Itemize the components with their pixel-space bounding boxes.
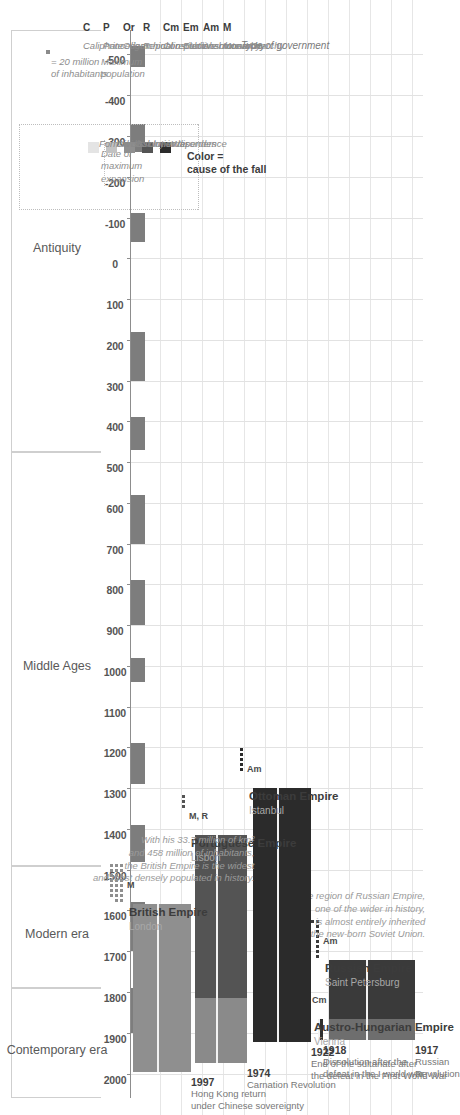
- empire-capital: Istanbul: [249, 805, 338, 816]
- population-unit: [240, 748, 243, 751]
- axis-tick: [127, 462, 131, 463]
- population-unit: [110, 889, 113, 892]
- empire-label-0: Russian EmpireSaint Petersburg: [325, 958, 412, 988]
- gridline-horizontal: [349, 0, 350, 1115]
- note-line: is almost entirely inherited: [315, 915, 425, 926]
- gridline-vertical: [131, 707, 423, 708]
- gridline-horizontal: [412, 0, 413, 1115]
- gridline-vertical: [131, 503, 423, 504]
- government-tag-2: Am: [247, 764, 262, 774]
- axis-tick: [127, 381, 131, 382]
- gridline-vertical: [131, 258, 423, 259]
- era-label: Antiquity: [33, 241, 81, 255]
- gridline-vertical: [131, 462, 423, 463]
- note-line: and 458 million of inhabitants,: [129, 846, 255, 857]
- fall-cause-text: Hong Kong return: [191, 1089, 304, 1100]
- axis-tick: [127, 951, 131, 952]
- gridline-vertical: [131, 625, 423, 626]
- empire-fall-annotation-4: 1997Hong Kong returnunder Chinese sovere…: [191, 1076, 304, 1111]
- gridline-vertical: [131, 218, 423, 219]
- period-marker: [131, 495, 145, 544]
- population-unit: [182, 805, 185, 808]
- empire-label-1: Austro-Hungarian EmpireVienna: [314, 1017, 454, 1047]
- empire-note-4: With his 33.7 million of km²and 458 mill…: [93, 834, 254, 885]
- gridline-vertical: [131, 299, 423, 300]
- gridline-horizontal: [328, 0, 329, 1115]
- axis-tick: [127, 788, 131, 789]
- axis-tick-label: 100: [107, 299, 124, 311]
- era-label: Modern era: [25, 927, 89, 941]
- legend-population-swatch: [46, 50, 50, 54]
- population-unit: [240, 758, 243, 761]
- legend-government-key-0: M: [223, 22, 231, 33]
- period-marker: [131, 417, 145, 450]
- axis-tick: [127, 299, 131, 300]
- period-marker: [131, 213, 145, 242]
- fall-year: 1997: [191, 1076, 304, 1088]
- population-unit: [316, 950, 319, 953]
- legend-government-key-5: Or: [123, 22, 135, 33]
- empire-bar-ottoman-empire[interactable]: [253, 788, 311, 1042]
- legend-government-key-6: P: [103, 22, 110, 33]
- axis-tick-label: 400: [107, 421, 124, 433]
- government-tag-3: M, R: [189, 811, 208, 821]
- period-marker: [131, 580, 145, 625]
- axis-tick: [127, 544, 131, 545]
- axis-tick: [127, 1033, 131, 1034]
- axis-tick-label: 900: [107, 625, 124, 637]
- population-unit: [120, 894, 123, 897]
- axis-tick-label: 800: [107, 584, 124, 596]
- axis-tick-label: 1200: [104, 747, 127, 759]
- empire-capital: London: [129, 921, 208, 932]
- note-line: and most densely populated in history.: [93, 872, 254, 883]
- gridline-vertical: [131, 340, 423, 341]
- population-unit: [120, 889, 123, 892]
- axis-tick-label: 300: [107, 381, 124, 393]
- empire-name: British Empire: [129, 906, 208, 918]
- population-unit: [115, 889, 118, 892]
- note-line: one of the wider in history,: [315, 903, 425, 914]
- gridline-vertical: [131, 584, 423, 585]
- legend-government-value-7: Caliphate: [83, 40, 123, 51]
- note-line: The region of Russian Empire,: [297, 890, 425, 901]
- empire-label-4: British EmpireLondon: [129, 902, 208, 932]
- gridline-vertical: [131, 381, 423, 382]
- axis-tick-label: 1700: [104, 951, 127, 963]
- legend-government-key-4: R: [143, 22, 150, 33]
- axis-tick: [127, 1074, 131, 1075]
- gridline-horizontal: [370, 0, 371, 1115]
- gridline-vertical: [131, 747, 423, 748]
- gridline-horizontal: [391, 0, 392, 1115]
- gridline-vertical: [131, 666, 423, 667]
- axis-tick-label: 600: [107, 503, 124, 515]
- axis-tick-label: 0: [112, 258, 118, 270]
- axis-tick-label: -400: [105, 95, 125, 107]
- population-unit: [120, 899, 123, 902]
- axis-tick: [127, 95, 131, 96]
- gridline-vertical: [131, 421, 423, 422]
- period-marker: [131, 743, 145, 784]
- era-label: Contemporary era: [7, 1043, 108, 1057]
- period-marker: [131, 332, 145, 381]
- axis-tick-label: 1800: [104, 992, 127, 1004]
- axis-tick: [127, 707, 131, 708]
- gridline-vertical: [131, 95, 423, 96]
- fall-year: 1922: [311, 1046, 447, 1058]
- legend-color-box: [19, 124, 199, 210]
- empire-name: Russian Empire: [325, 962, 412, 974]
- axis-tick-label: 500: [107, 462, 124, 474]
- legend-government-key-7: C: [83, 22, 90, 33]
- empire-name: Ottoman Empire: [249, 790, 338, 802]
- empire-internal-split: [277, 788, 279, 1042]
- note-line: With his 33.7 million of km²: [141, 834, 254, 845]
- axis-tick-label: 1600: [104, 910, 127, 922]
- axis-tick-label: -100: [105, 218, 125, 230]
- axis-tick-label: 700: [107, 544, 124, 556]
- population-unit: [115, 899, 118, 902]
- axis-tick: [127, 258, 131, 259]
- axis-tick-label: 1100: [104, 707, 126, 719]
- population-unit: [240, 753, 243, 756]
- gridline-vertical: [131, 54, 423, 55]
- population-unit: [115, 894, 118, 897]
